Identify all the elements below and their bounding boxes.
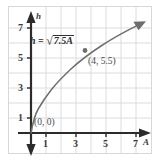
equation-lhs: h [30,35,36,46]
y-tick-label-3: 3 [18,83,23,93]
x-tick-label-5: 5 [103,139,108,149]
equation-radicand: 7.5A [53,35,74,46]
equation-equals-sign: = [38,35,44,46]
x-tick-label-3: 3 [73,139,78,149]
equation-annotation: h = √7.5A [30,33,74,46]
data-point-marker [83,48,88,53]
y-tick-label-7: 7 [18,23,23,33]
origin-point-label: (0, 0) [34,118,55,128]
radical-sign-icon: √ [46,35,53,47]
y-axis-name-label: h [36,12,41,21]
marked-point-label: (4, 5.5) [88,57,116,67]
x-axis-name-label: A [143,138,149,147]
y-tick-label-5: 5 [18,53,23,63]
x-tick-label-1: 1 [43,139,48,149]
x-tick-label-7: 7 [133,139,138,149]
math-graph-figure: h A 1 3 5 7 1 3 5 7 h = √7.5A (0, 0) (4,… [0,0,160,166]
radical-expression: √7.5A [46,33,74,46]
y-tick-label-1: 1 [18,113,23,123]
